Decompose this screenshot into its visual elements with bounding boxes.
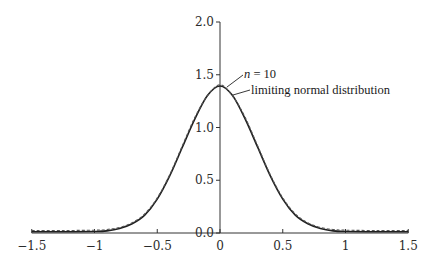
y-axis-ticks: 0.00.51.01.52.0 (195, 15, 220, 240)
y-tick-label: 0.5 (195, 173, 214, 187)
y-tick-label: 1.0 (195, 121, 214, 135)
annotation-n10: n = 10 (244, 67, 276, 81)
x-tick-label: 1 (342, 239, 350, 253)
x-tick-label: 0.5 (273, 239, 292, 253)
axes: −1.5−1−0.50.511.50 0.00.51.01.52.0 (17, 15, 418, 253)
annotation-normal: limiting normal distribution (251, 83, 391, 97)
leader-line-normal (233, 90, 250, 95)
annotations: n = 10 limiting normal distribution (227, 67, 391, 97)
x-tick-label: −1.5 (17, 239, 46, 253)
distribution-chart: −1.5−1−0.50.511.50 0.00.51.01.52.0 n = 1… (0, 0, 432, 265)
annotation-n10-value: = 10 (250, 67, 276, 81)
y-tick-label: 1.5 (195, 68, 214, 82)
y-tick-label: 0.0 (195, 226, 214, 240)
x-tick-label: −1 (86, 239, 104, 253)
leader-line-n10 (227, 75, 243, 87)
y-tick-label: 2.0 (195, 15, 214, 29)
x-tick-label: 0 (216, 239, 224, 253)
x-tick-label: 1.5 (399, 239, 418, 253)
x-tick-label: −0.5 (143, 239, 172, 253)
